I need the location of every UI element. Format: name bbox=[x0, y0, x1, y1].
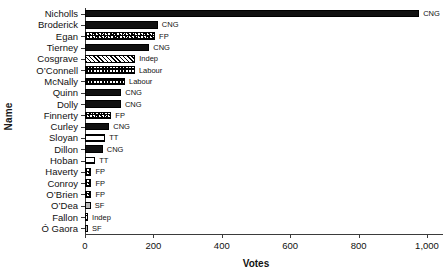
x-axis-tick bbox=[290, 234, 291, 238]
bar-value-label: CNG bbox=[423, 9, 440, 18]
category-label: Curley bbox=[51, 121, 78, 132]
category-label: Finnerty bbox=[44, 110, 78, 121]
bar-value-label: FP bbox=[115, 111, 125, 120]
bar bbox=[85, 32, 155, 40]
bar-value-label: FP bbox=[159, 32, 169, 41]
x-axis-tick-label: 1,000 bbox=[415, 240, 439, 251]
bar-value-label: CNG bbox=[125, 88, 142, 97]
bar-value-label: CNG bbox=[162, 20, 179, 29]
y-axis-tick bbox=[81, 206, 85, 207]
bar bbox=[85, 78, 125, 86]
y-axis-tick bbox=[81, 138, 85, 139]
bar bbox=[85, 145, 103, 153]
bar bbox=[85, 157, 95, 165]
bar-row: FinnertyFP bbox=[85, 110, 427, 121]
category-label: Dillon bbox=[54, 144, 78, 155]
y-axis-tick bbox=[81, 25, 85, 26]
category-label: Tierney bbox=[47, 42, 78, 53]
bar-row: O’BrienFP bbox=[85, 189, 427, 200]
votes-bar-chart: Name NichollsCNGBroderickCNGEganFPTierne… bbox=[0, 0, 447, 279]
bar-row: BroderickCNG bbox=[85, 19, 427, 30]
x-axis-line bbox=[85, 234, 443, 235]
x-axis-tick-label: 400 bbox=[214, 240, 230, 251]
plot-area: NichollsCNGBroderickCNGEganFPTierneyCNGC… bbox=[85, 8, 427, 234]
bar-row: Ó GaoraSF bbox=[85, 223, 427, 234]
y-axis-tick bbox=[81, 14, 85, 15]
category-label: O’Brien bbox=[46, 189, 78, 200]
y-axis-tick bbox=[81, 36, 85, 37]
y-axis-tick bbox=[81, 48, 85, 49]
category-label: Conroy bbox=[47, 178, 78, 189]
bar bbox=[85, 112, 111, 120]
bar-row: McNallyLabour bbox=[85, 76, 427, 87]
y-axis-tick bbox=[81, 149, 85, 150]
bar-value-label: CNG bbox=[125, 100, 142, 109]
bar-row: O’DeaSF bbox=[85, 200, 427, 211]
category-label: O’Connell bbox=[36, 65, 78, 76]
bar-row: DollyCNG bbox=[85, 98, 427, 109]
bar bbox=[85, 225, 88, 233]
y-axis-tick bbox=[81, 217, 85, 218]
category-label: Haverty bbox=[45, 166, 78, 177]
bar bbox=[85, 213, 88, 221]
y-axis-tick bbox=[81, 81, 85, 82]
x-axis-tick bbox=[85, 234, 86, 238]
bar-value-label: CNG bbox=[113, 122, 130, 131]
bar-row: QuinnCNG bbox=[85, 87, 427, 98]
bar-value-label: FP bbox=[95, 179, 105, 188]
bar bbox=[85, 89, 121, 97]
bar-row: NichollsCNG bbox=[85, 8, 427, 19]
bar-row: O’ConnellLabour bbox=[85, 65, 427, 76]
bar-row: CosgraveIndep bbox=[85, 53, 427, 64]
y-axis-tick bbox=[81, 228, 85, 229]
bar bbox=[85, 44, 149, 52]
bar-value-label: FP bbox=[95, 190, 105, 199]
category-label: Egan bbox=[56, 31, 78, 42]
bar bbox=[85, 168, 91, 176]
x-axis-title: Votes bbox=[85, 258, 427, 269]
category-label: O’Dea bbox=[51, 200, 78, 211]
y-axis-tick bbox=[81, 70, 85, 71]
category-label: Quinn bbox=[53, 87, 78, 98]
bar-value-label: FP bbox=[95, 167, 105, 176]
bar bbox=[85, 21, 158, 29]
bar-value-label: CNG bbox=[107, 145, 124, 154]
category-label: Sloyan bbox=[49, 132, 78, 143]
bar-value-label: Labour bbox=[139, 66, 162, 75]
bar-row: HobanTT bbox=[85, 155, 427, 166]
category-label: Cosgrave bbox=[37, 53, 78, 64]
bar-value-label: Labour bbox=[129, 77, 152, 86]
y-axis-tick bbox=[81, 161, 85, 162]
y-axis-tick bbox=[81, 93, 85, 94]
category-label: McNally bbox=[44, 76, 78, 87]
bar bbox=[85, 123, 109, 131]
category-label: Fallon bbox=[52, 212, 78, 223]
bar-row: HavertyFP bbox=[85, 166, 427, 177]
bar-row: SloyanTT bbox=[85, 132, 427, 143]
bar-value-label: Indep bbox=[92, 213, 111, 222]
category-label: Ó Gaora bbox=[42, 223, 78, 234]
category-label: Nicholls bbox=[45, 8, 78, 19]
y-axis-tick bbox=[81, 127, 85, 128]
x-axis-tick-label: 0 bbox=[82, 240, 87, 251]
bar bbox=[85, 191, 91, 199]
bar-row: FallonIndep bbox=[85, 211, 427, 222]
bar-value-label: SF bbox=[95, 201, 105, 210]
bar-value-label: TT bbox=[109, 133, 118, 142]
bar bbox=[85, 134, 105, 142]
bar-row: ConroyFP bbox=[85, 178, 427, 189]
y-axis-title-text: Name bbox=[3, 102, 14, 130]
y-axis-tick bbox=[81, 104, 85, 105]
bar-row: TierneyCNG bbox=[85, 42, 427, 53]
y-axis-tick bbox=[81, 183, 85, 184]
x-axis-tick bbox=[222, 234, 223, 238]
y-axis-tick bbox=[81, 115, 85, 116]
y-axis-tick bbox=[81, 194, 85, 195]
bar-row: EganFP bbox=[85, 31, 427, 42]
bar-row: CurleyCNG bbox=[85, 121, 427, 132]
bar-value-label: Indep bbox=[139, 54, 158, 63]
bar bbox=[85, 66, 135, 74]
bar-row: DillonCNG bbox=[85, 144, 427, 155]
category-label: Dolly bbox=[57, 99, 78, 110]
y-axis-tick bbox=[81, 172, 85, 173]
